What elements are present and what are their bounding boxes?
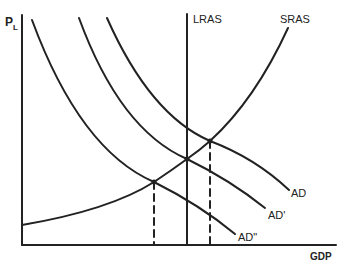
ad-prime-label: AD' xyxy=(268,210,285,221)
ad-double-prime-curve xyxy=(32,20,235,234)
equilibrium-point-1 xyxy=(152,180,157,185)
y-axis-label: PL xyxy=(5,16,18,28)
ad-as-diagram xyxy=(0,0,343,269)
ad-double-prime-label: AD" xyxy=(238,232,257,243)
sras-label: SRAS xyxy=(280,14,310,25)
lras-label: LRAS xyxy=(193,14,222,25)
equilibrium-point-2 xyxy=(185,157,190,162)
x-axis-label: GDP xyxy=(310,252,332,262)
equilibrium-point-3 xyxy=(208,139,213,144)
ad-label: AD xyxy=(291,188,306,199)
